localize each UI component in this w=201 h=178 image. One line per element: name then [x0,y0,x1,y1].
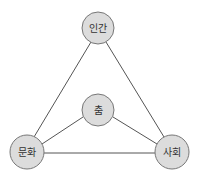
edge-dance-culture [42,117,83,144]
node-culture: 문화 [10,135,44,169]
node-label-culture: 문화 [18,147,36,158]
relationship-diagram: 인간 춤 문화 사회 [0,0,201,178]
node-label-human: 인간 [89,23,107,34]
node-label-dance: 춤 [94,105,103,116]
edge-dance-society [113,117,157,144]
node-dance: 춤 [82,94,114,126]
node-society: 사회 [155,135,189,169]
edge-human-society [106,42,164,137]
edge-human-culture [34,42,91,137]
node-human: 인간 [82,12,114,44]
node-label-society: 사회 [163,147,181,158]
